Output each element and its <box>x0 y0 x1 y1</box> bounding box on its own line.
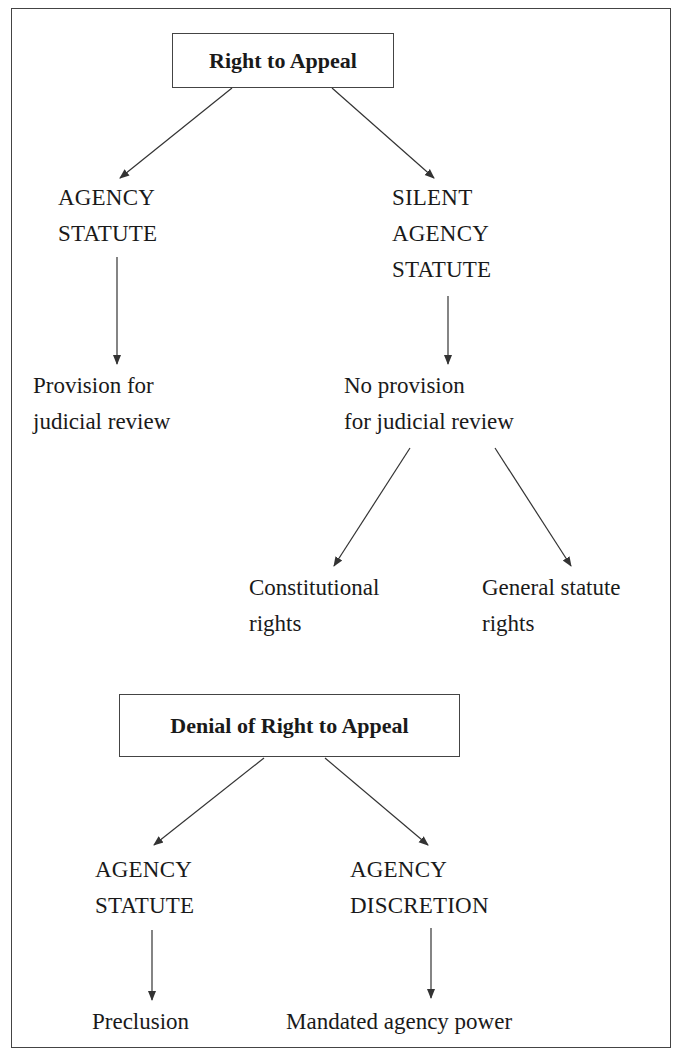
agency-statute-node-2: AGENCY STATUTE <box>95 852 194 924</box>
provision-for-judicial-review-node: Provision for judicial review <box>33 368 170 440</box>
denial-title: Denial of Right to Appeal <box>170 713 408 739</box>
mandated-agency-power-node: Mandated agency power <box>286 1004 512 1040</box>
constitutional-rights-node: Constitutional rights <box>249 570 379 642</box>
arrow-to-agency-discretion <box>325 758 428 845</box>
preclusion-node: Preclusion <box>92 1004 189 1040</box>
general-statute-rights-node: General statute rights <box>482 570 621 642</box>
arrow-to-agency-statute-2 <box>154 758 264 845</box>
agency-discretion-node: AGENCY DISCRETION <box>350 852 489 924</box>
right-to-appeal-title: Right to Appeal <box>209 48 357 74</box>
arrow-to-general-statute <box>495 448 571 566</box>
arrow-to-silent-agency-statute <box>332 88 434 178</box>
silent-agency-statute-node: SILENT AGENCY STATUTE <box>392 180 491 288</box>
agency-statute-node: AGENCY STATUTE <box>58 180 157 252</box>
arrow-to-constitutional <box>334 448 410 566</box>
denial-of-right-to-appeal-box: Denial of Right to Appeal <box>119 694 460 757</box>
arrow-to-agency-statute <box>120 88 232 178</box>
right-to-appeal-box: Right to Appeal <box>172 33 394 88</box>
no-provision-node: No provision for judicial review <box>344 368 514 440</box>
